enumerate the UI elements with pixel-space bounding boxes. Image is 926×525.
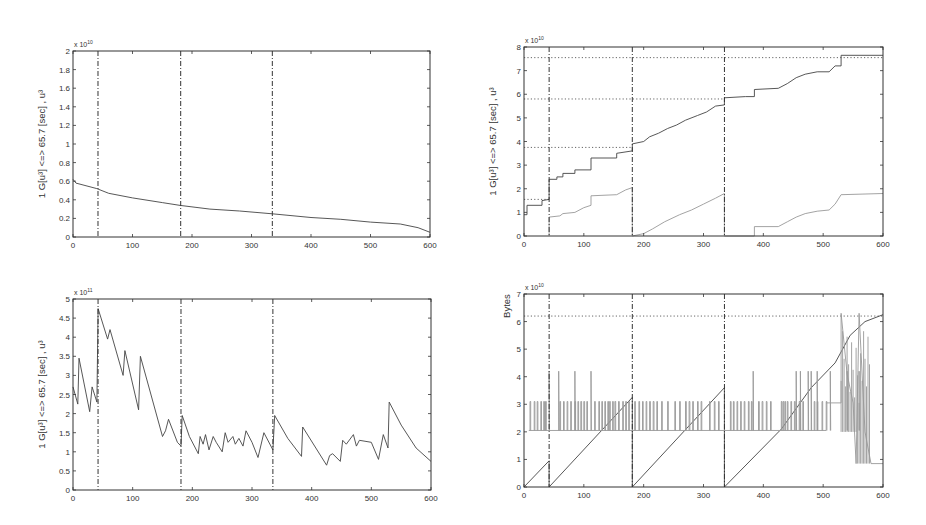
y-tick-label: 3.5 — [59, 352, 71, 361]
y-tick-label: 0.2 — [59, 214, 71, 223]
y-tick-label: 1.8 — [59, 66, 71, 75]
y-tick-label: 1 — [66, 448, 71, 457]
series-sawtooth — [73, 309, 431, 466]
series-bursts — [529, 313, 883, 463]
y-tick-label: 2.5 — [59, 391, 71, 400]
x-tick-label: 600 — [424, 494, 438, 503]
figure-canvas: 010020030040050060000.20.40.60.811.21.41… — [0, 0, 926, 525]
x-tick-label: 200 — [185, 241, 199, 250]
series-baseline — [73, 179, 430, 232]
x-tick-label: 100 — [126, 494, 140, 503]
y-tick-label: 2 — [66, 410, 71, 419]
y-tick-label: 1.2 — [59, 121, 71, 130]
y-tick-label: 7 — [517, 290, 522, 299]
plot-top-right: 0100200300400500600012345678x 10101 G[u³… — [487, 35, 890, 249]
y-tick-label: 0.8 — [59, 159, 71, 168]
y-tick-label: 6 — [517, 90, 522, 99]
y-tick-label: 2 — [66, 47, 71, 56]
y-axis-label: Bytes — [501, 294, 512, 318]
series-segment-progress — [549, 188, 883, 236]
y-tick-label: 0.5 — [59, 467, 71, 476]
y-tick-label: 0.6 — [59, 177, 71, 186]
y-tick-label: 3 — [66, 371, 71, 380]
y-tick-label: 7 — [517, 67, 522, 76]
y-tick-label: 0 — [517, 483, 522, 492]
y-tick-label: 4 — [66, 333, 71, 342]
y-exponent-label: x 1011 — [74, 287, 93, 296]
axes-frame — [524, 294, 883, 487]
y-tick-label: 4 — [517, 138, 522, 147]
axes-frame — [73, 299, 431, 490]
plot-top-left: 010020030040050060000.20.40.60.811.21.41… — [36, 39, 437, 250]
plot-bottom-right: 010020030040050060001234567x 1010Bytes — [501, 282, 890, 500]
axes-frame — [73, 51, 430, 237]
x-tick-label: 100 — [577, 240, 591, 249]
y-exponent-label: x 1010 — [74, 39, 93, 48]
y-tick-label: 4.5 — [59, 314, 71, 323]
y-tick-label: 8 — [517, 43, 522, 52]
y-exponent-label: x 1010 — [525, 35, 544, 44]
y-tick-label: 1 — [66, 140, 71, 149]
y-axis-label: 1 G[u³] <=> 65.7 [sec] , u³ — [36, 340, 47, 449]
y-tick-label: 0.4 — [59, 196, 71, 205]
series-ramp — [524, 315, 883, 487]
x-tick-label: 0 — [71, 241, 76, 250]
y-tick-label: 0 — [517, 232, 522, 241]
y-tick-label: 6 — [517, 318, 522, 327]
x-tick-label: 400 — [757, 491, 771, 500]
y-tick-label: 1.5 — [59, 429, 71, 438]
x-tick-label: 0 — [71, 494, 76, 503]
x-tick-label: 0 — [522, 491, 527, 500]
y-axis-label: 1 G[u³] <=> 65.7 [sec] , u³ — [36, 90, 47, 199]
x-tick-label: 400 — [305, 494, 319, 503]
x-tick-label: 600 — [876, 240, 890, 249]
x-tick-label: 500 — [816, 491, 830, 500]
x-tick-label: 500 — [364, 241, 378, 250]
y-tick-label: 1.4 — [59, 103, 71, 112]
plot-bottom-left: 010020030040050060000.511.522.533.544.55… — [36, 287, 438, 503]
x-tick-label: 500 — [365, 494, 379, 503]
y-tick-label: 5 — [66, 295, 71, 304]
y-axis-label: 1 G[u³] <=> 65.7 [sec] , u³ — [487, 87, 498, 196]
y-tick-label: 3 — [517, 400, 522, 409]
x-tick-label: 300 — [697, 240, 711, 249]
x-tick-label: 400 — [304, 241, 318, 250]
x-tick-label: 200 — [637, 240, 651, 249]
x-tick-label: 600 — [423, 241, 437, 250]
y-tick-label: 2 — [517, 185, 522, 194]
series-cumulative-total — [524, 55, 883, 214]
y-tick-label: 5 — [517, 345, 522, 354]
y-tick-label: 3 — [517, 161, 522, 170]
x-tick-label: 0 — [522, 240, 527, 249]
y-exponent-label: x 1010 — [525, 282, 544, 291]
y-tick-label: 1.6 — [59, 84, 71, 93]
x-tick-label: 600 — [876, 491, 890, 500]
y-tick-label: 1 — [517, 455, 522, 464]
x-tick-label: 500 — [816, 240, 830, 249]
y-tick-label: 5 — [517, 114, 522, 123]
x-tick-label: 100 — [577, 491, 591, 500]
y-tick-label: 1 — [517, 208, 522, 217]
x-tick-label: 100 — [126, 241, 140, 250]
y-tick-label: 0 — [66, 486, 71, 495]
axes-frame — [524, 47, 883, 236]
x-tick-label: 300 — [245, 241, 259, 250]
x-tick-label: 200 — [186, 494, 200, 503]
y-tick-label: 2 — [517, 428, 522, 437]
x-tick-label: 300 — [697, 491, 711, 500]
y-tick-label: 0 — [66, 233, 71, 242]
x-tick-label: 400 — [757, 240, 771, 249]
x-tick-label: 200 — [637, 491, 651, 500]
y-tick-label: 4 — [517, 373, 522, 382]
x-tick-label: 300 — [245, 494, 259, 503]
